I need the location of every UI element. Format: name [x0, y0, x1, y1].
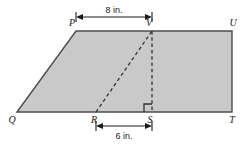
figure-canvas: 8 in. 6 in. P V U Q R S T — [0, 0, 249, 145]
geometry-figure: 8 in. 6 in. P V U Q R S T — [0, 0, 249, 145]
vertex-label-v: V — [146, 17, 154, 28]
dimension-bottom-6in: 6 in. — [96, 121, 152, 141]
dimension-top-arrow-left-icon — [76, 14, 83, 20]
vertex-label-q: Q — [8, 114, 16, 125]
dimension-bottom-label: 6 in. — [115, 131, 132, 141]
vertex-label-s: S — [148, 114, 153, 125]
parallelogram-shape — [17, 31, 232, 112]
vertex-label-u: U — [229, 17, 237, 28]
dimension-top-8in: 8 in. — [76, 5, 152, 22]
dimension-top-label: 8 in. — [105, 5, 122, 15]
vertex-label-t: T — [229, 114, 236, 125]
vertex-label-r: R — [90, 114, 97, 125]
vertex-label-p: P — [68, 17, 75, 28]
